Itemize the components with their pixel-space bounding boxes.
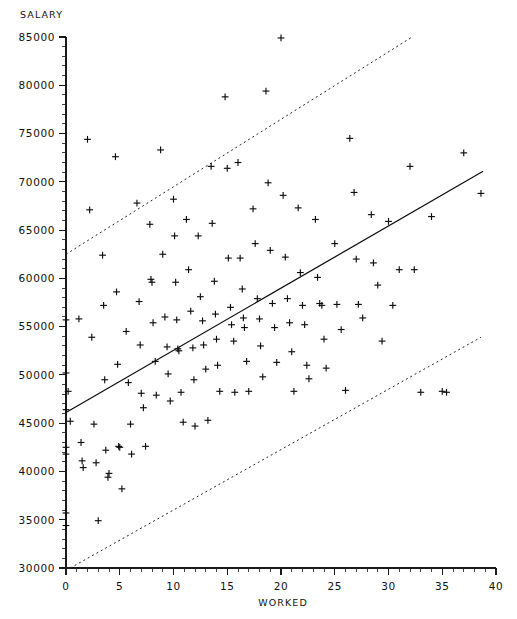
data-point-marker: [228, 321, 235, 328]
data-point-marker: [211, 278, 218, 285]
data-point-marker: [295, 204, 302, 211]
data-point-marker: [88, 334, 95, 341]
data-point-marker: [105, 474, 112, 481]
x-tick-label: 40: [489, 580, 504, 592]
x-tick-label: 15: [220, 580, 235, 592]
data-point-markers: [63, 35, 485, 529]
x-axis-ticks: 0510152025303540: [62, 568, 503, 592]
data-point-marker: [284, 295, 291, 302]
data-point-marker: [115, 443, 122, 450]
data-point-marker: [172, 279, 179, 286]
data-point-marker: [128, 451, 135, 458]
data-point-marker: [231, 389, 238, 396]
data-point-marker: [278, 35, 285, 42]
data-point-marker: [288, 348, 295, 355]
data-point-marker: [443, 389, 450, 396]
data-point-marker: [225, 255, 232, 262]
data-point-marker: [227, 304, 234, 311]
data-point-marker: [125, 379, 132, 386]
data-point-marker: [282, 254, 289, 261]
data-point-marker: [113, 288, 120, 295]
data-point-marker: [99, 252, 106, 259]
data-point-marker: [91, 421, 98, 428]
data-point-marker: [241, 324, 248, 331]
data-point-marker: [257, 343, 264, 350]
data-point-marker: [214, 362, 221, 369]
data-point-marker: [138, 390, 145, 397]
data-point-marker: [331, 240, 338, 247]
y-tick-label: 40000: [19, 465, 55, 477]
data-point-marker: [338, 326, 345, 333]
x-tick-label: 35: [435, 580, 450, 592]
data-point-marker: [63, 444, 70, 451]
y-tick-label: 30000: [19, 562, 55, 574]
data-point-marker: [396, 266, 403, 273]
regression-line: [66, 171, 483, 412]
data-point-marker: [359, 315, 366, 322]
data-point-marker: [191, 376, 198, 383]
data-point-marker: [265, 179, 272, 186]
x-tick-label: 20: [274, 580, 289, 592]
data-point-marker: [202, 366, 209, 373]
data-point-marker: [252, 240, 259, 247]
data-point-marker: [192, 423, 199, 430]
data-point-marker: [63, 522, 70, 529]
data-point-marker: [355, 301, 362, 308]
data-point-marker: [411, 266, 418, 273]
data-point-marker: [323, 365, 330, 372]
data-point-marker: [183, 216, 190, 223]
data-point-marker: [230, 338, 237, 345]
data-point-marker: [112, 153, 119, 160]
data-point-marker: [93, 459, 100, 466]
data-point-marker: [167, 398, 174, 405]
data-point-marker: [173, 316, 180, 323]
data-point-marker: [208, 163, 215, 170]
data-point-marker: [195, 232, 202, 239]
data-point-marker: [205, 417, 212, 424]
y-tick-label: 60000: [19, 272, 55, 284]
data-point-marker: [76, 316, 83, 323]
data-point-marker: [385, 218, 392, 225]
data-point-marker: [165, 371, 172, 378]
data-point-marker: [79, 457, 86, 464]
data-point-marker: [286, 319, 293, 326]
data-point-marker: [342, 387, 349, 394]
data-point-marker: [170, 196, 177, 203]
data-point-marker: [197, 293, 204, 300]
data-point-marker: [478, 190, 485, 197]
y-tick-label: 70000: [19, 176, 55, 188]
y-tick-label: 75000: [19, 127, 55, 139]
y-tick-label: 35000: [19, 514, 55, 526]
data-point-marker: [213, 336, 220, 343]
data-point-marker: [185, 266, 192, 273]
data-point-marker: [299, 302, 306, 309]
data-point-marker: [312, 216, 319, 223]
data-point-marker: [243, 358, 250, 365]
data-point-marker: [162, 314, 169, 321]
confidence-band-lines: [66, 37, 481, 568]
data-point-marker: [250, 205, 257, 212]
data-point-marker: [291, 388, 298, 395]
x-tick-label: 5: [116, 580, 123, 592]
data-point-marker: [235, 159, 242, 166]
data-point-marker: [314, 274, 321, 281]
data-point-marker: [180, 419, 187, 426]
data-point-marker: [346, 135, 353, 142]
data-point-marker: [379, 338, 386, 345]
data-point-marker: [80, 464, 87, 471]
data-point-marker: [114, 361, 121, 368]
data-point-marker: [263, 88, 270, 95]
y-tick-label: 50000: [19, 369, 55, 381]
data-point-marker: [240, 315, 247, 322]
data-point-marker: [212, 311, 219, 318]
data-point-marker: [239, 286, 246, 293]
data-point-marker: [171, 232, 178, 239]
data-point-marker: [370, 260, 377, 267]
data-point-marker: [280, 192, 287, 199]
data-point-marker: [389, 302, 396, 309]
data-point-marker: [209, 220, 216, 227]
data-point-marker: [84, 136, 91, 143]
data-point-marker: [63, 510, 70, 517]
x-axis-title: WORKED: [258, 597, 308, 608]
x-tick-label: 25: [327, 580, 342, 592]
